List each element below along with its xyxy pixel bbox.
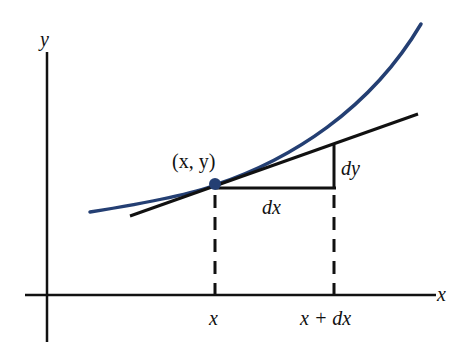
diagram-canvas: y x (x, y) dx dy x x + dx bbox=[0, 0, 471, 356]
x-tick-label: x bbox=[208, 307, 218, 329]
y-axis-label: y bbox=[38, 28, 49, 51]
x-plus-dx-tick-label: x + dx bbox=[299, 307, 351, 329]
differential-diagram: y x (x, y) dx dy x x + dx bbox=[0, 0, 471, 356]
x-axis-label: x bbox=[436, 283, 446, 305]
point-label: (x, y) bbox=[172, 150, 215, 173]
dy-label: dy bbox=[341, 157, 360, 180]
dx-label: dx bbox=[262, 196, 281, 218]
curve-f bbox=[90, 24, 421, 212]
tangent-point bbox=[209, 178, 221, 190]
